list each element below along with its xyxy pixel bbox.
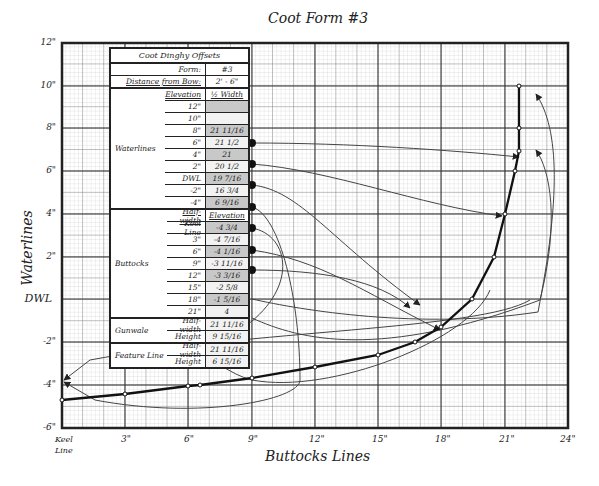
x-tick: 6"	[184, 434, 194, 444]
row-value: -2 5/8	[205, 282, 248, 293]
distance-label: Distance from Bow:	[111, 77, 205, 86]
row-value: 9 15/16	[205, 331, 248, 342]
row-label: 12"	[165, 102, 205, 111]
row-value: 21 1/2	[205, 137, 248, 148]
row-label: Half-width	[167, 341, 205, 359]
row-value: -1 5/16	[205, 294, 248, 305]
row-value: 21 11/16	[205, 319, 248, 330]
y-tick: 6"	[6, 165, 56, 175]
row-label: 6"	[167, 247, 205, 256]
offsets-table: Coot Dinghy Offsets Form:#3 Distance fro…	[109, 47, 250, 369]
row-label: 18"	[167, 295, 205, 304]
row-value: 21 11/16	[205, 125, 248, 136]
distance-value: 2' - 6"	[205, 76, 248, 87]
row-value: 6 15/16	[205, 356, 248, 367]
row-label: 2"	[165, 162, 205, 171]
y-tick: 8"	[6, 122, 56, 132]
x-tick: 3"	[121, 434, 131, 444]
y-tick: -2"	[6, 336, 56, 346]
col-header: Elevation	[165, 90, 205, 99]
buttocks-label: Buttocks	[111, 210, 167, 317]
y-tick: 2"	[6, 251, 56, 261]
row-label: 3"	[167, 235, 205, 244]
row-label: DWL	[165, 174, 205, 183]
row-label: 9"	[167, 259, 205, 268]
y-tick: 10"	[6, 80, 56, 90]
col-header: Elevation	[205, 210, 248, 221]
feature-line-group: Feature Line Half-width21 11/16 Height6 …	[111, 344, 248, 367]
y-tick: -6"	[6, 422, 56, 432]
x-tick: 18"	[435, 434, 451, 444]
row-value: 21 11/16	[205, 344, 248, 355]
row-label: 10"	[165, 114, 205, 123]
gunwale-label: Gunwale	[111, 319, 167, 342]
row-value	[205, 113, 248, 124]
row-value: -3 11/16	[205, 258, 248, 269]
table-caption: Coot Dinghy Offsets	[111, 49, 248, 64]
x-tick: 9"	[248, 434, 258, 444]
x-tick: 24"	[560, 434, 576, 444]
row-label: Half-width	[167, 316, 205, 334]
row-value: 16 3/4	[205, 185, 248, 196]
row-value: 21	[205, 149, 248, 160]
row-label: Keel Line	[167, 219, 205, 237]
row-value	[205, 101, 248, 112]
waterlines-label: Waterlines	[111, 89, 165, 208]
feature-line-label: Feature Line	[111, 344, 167, 367]
row-value: 6 9/16	[205, 197, 248, 208]
y-tick: 12"	[6, 37, 56, 47]
col-header: ½ Width	[205, 89, 248, 100]
row-label: 8"	[165, 126, 205, 135]
x-tick: 15"	[372, 434, 388, 444]
row-value: -4 3/4	[205, 222, 248, 233]
row-value: 19 7/16	[205, 173, 248, 184]
form-label: Form:	[111, 65, 205, 74]
y-tick: -4"	[6, 379, 56, 389]
row-value: -4 7/16	[205, 234, 248, 245]
waterlines-group: Waterlines Elevation½ Width 12" 10" 8"21…	[111, 89, 248, 210]
buttocks-group: Buttocks Half-widthElevation Keel Line-4…	[111, 210, 248, 319]
x-tick: 12"	[309, 434, 325, 444]
row-value: -4 1/16	[205, 246, 248, 257]
form-value: #3	[205, 64, 248, 75]
row-value: -3 3/16	[205, 270, 248, 281]
y-tick: DWL	[2, 292, 52, 305]
row-label: 12"	[167, 271, 205, 280]
row-label: Height	[167, 357, 205, 366]
row-label: 6"	[165, 138, 205, 147]
plot-area	[0, 0, 599, 486]
row-label: -2"	[165, 186, 205, 195]
row-value: 20 1/2	[205, 161, 248, 172]
row-label: 15"	[167, 283, 205, 292]
y-tick: 4"	[6, 208, 56, 218]
row-label: 4"	[165, 150, 205, 159]
x-tick: Keel Line	[55, 434, 79, 456]
x-tick: 21"	[499, 434, 515, 444]
row-value: 4	[205, 306, 248, 317]
